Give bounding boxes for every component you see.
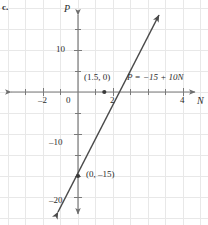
- y-tick-label-neg20: –20: [49, 196, 63, 205]
- y-tick-label-neg10: –10: [49, 138, 63, 147]
- point-label-y-intercept: (0, –15): [86, 170, 115, 179]
- x-tick-label-neg2: –2: [38, 96, 47, 105]
- equation-annotation: P = −15 + 10N: [127, 73, 184, 82]
- plot-area: [0, 0, 208, 225]
- point-label-x-intercept: (1.5, 0): [84, 73, 110, 82]
- y-tick-label-0: 0: [66, 96, 71, 105]
- point-marker-y-intercept: [76, 174, 80, 178]
- p-axis-label: P: [64, 4, 70, 14]
- part-label: c.: [2, 3, 8, 12]
- n-axis-label: N: [197, 96, 204, 106]
- x-tick-label-2: 2: [110, 96, 115, 105]
- p-axis: [74, 15, 82, 214]
- trend-line: [58, 15, 159, 212]
- chart-figure: c. P N 10 0 –10 –20 –2 2 4 (1.5, 0) (0, …: [0, 0, 208, 225]
- x-tick-label-4: 4: [180, 96, 185, 105]
- y-tick-label-10: 10: [56, 45, 65, 54]
- point-marker-x-intercept: [102, 90, 106, 94]
